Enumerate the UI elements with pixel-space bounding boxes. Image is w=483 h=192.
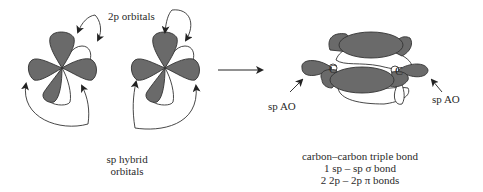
sp-pointer-curve-1b [82,86,89,124]
triple-bond-orbitals [302,32,428,104]
sp-pointer-curve-2b [133,82,136,128]
carbon-atom-label-left: C [329,63,337,75]
carbon-atom-label-right: C [395,65,403,77]
2p-orbitals-label: 2p orbitals [108,10,155,22]
caption-line3: 2 2p – 2p π bonds [280,174,440,186]
sp-ao-label-left: sp AO [268,100,296,112]
orbital-diagram: 2p orbitals sp hybrid orbitals C C sp AO… [0,0,483,192]
sp-ao-right-pointer [432,80,442,92]
sp-hybrid-label-line2: orbitals [92,165,162,177]
carbon-atom-1-orbitals [28,32,96,105]
sp-ao-left-pointer [290,80,302,92]
pi-bond-upper [339,32,403,58]
caption-line2: 1 sp – sp σ bond [280,162,440,174]
carbon-atom-2-orbitals [131,32,199,105]
sp-ao-label-right: sp AO [432,93,460,105]
2p-pointer-curve-1 [95,15,101,40]
2p-pointer-curve-1b [78,15,95,32]
sp-hybrid-label-line1: sp hybrid [92,153,162,165]
pi-bond-lower [330,67,394,93]
2p-pointer-curve-2b [165,10,172,32]
caption-line1: carbon–carbon triple bond [280,150,440,162]
